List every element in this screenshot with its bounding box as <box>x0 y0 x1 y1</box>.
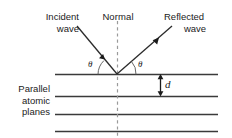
angle-label-reflected: θ <box>138 59 142 69</box>
atomic-plane-lines <box>55 75 218 132</box>
normal-label: Normal <box>88 11 148 22</box>
reflected-wave-label-line1: Reflected <box>164 11 226 23</box>
planes-label-line1: Parallel <box>0 83 50 95</box>
interplanar-spacing-label: d <box>165 78 171 90</box>
angle-arc-left <box>98 61 104 75</box>
angle-arc-right <box>132 62 137 75</box>
incident-ray-arrowhead <box>99 54 105 60</box>
reflected-ray-arrowhead <box>153 38 159 45</box>
planes-label-line3: planes <box>0 106 50 118</box>
incident-ray <box>77 26 117 74</box>
planes-label-line2: atomic <box>0 95 50 107</box>
incident-wave-label-line2: wave <box>22 23 79 35</box>
reflected-wave-label-line2: wave <box>164 23 226 35</box>
parallel-atomic-planes-label: Parallel atomic planes <box>0 83 50 118</box>
angle-label-incident: θ <box>88 59 92 69</box>
bragg-diffraction-diagram: Incident wave Normal Reflected wave Para… <box>0 0 232 138</box>
reflected-wave-label: Reflected wave <box>164 11 226 34</box>
interplanar-spacing-arrow <box>158 74 164 97</box>
incident-wave-label-line1: Incident <box>22 11 79 23</box>
incident-wave-label: Incident wave <box>22 11 79 34</box>
incident-ray-line <box>77 26 117 74</box>
